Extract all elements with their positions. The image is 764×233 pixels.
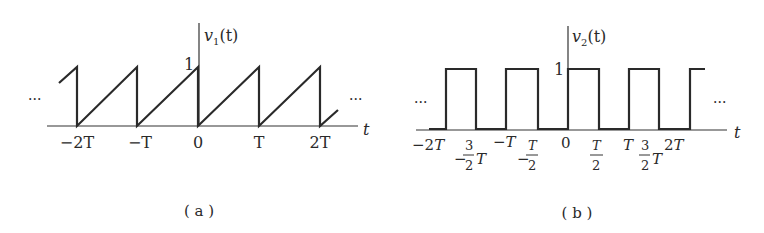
caption-b: ( b ) (562, 204, 593, 222)
y-label-a: v1(t) (204, 26, 238, 47)
square-wave (429, 69, 705, 129)
y-tick-1-a: 1 (184, 55, 194, 74)
svg-text:2: 2 (641, 158, 649, 173)
svg-text:T: T (652, 150, 663, 168)
x-tick-a: 2T (310, 133, 331, 152)
sawtooth-wave (59, 67, 338, 126)
chart-a: v1(t) 1 t ··· ··· −2T −T 0 T 2T ( a ) (28, 23, 370, 220)
x-label-a: t (363, 120, 370, 139)
y-label-b: v2(t) (572, 27, 606, 48)
x-tick-a: T (254, 133, 265, 152)
svg-text:−2T: −2T (412, 136, 445, 154)
svg-text:2T: 2T (664, 136, 685, 154)
svg-text:−T: −T (493, 133, 517, 151)
caption-a: ( a ) (184, 202, 214, 220)
svg-text:T: T (592, 138, 602, 153)
x-tick-a: −2T (60, 133, 95, 152)
dots-right-a: ··· (349, 91, 362, 107)
dots-left-b: ··· (414, 94, 427, 110)
x-label-b: t (734, 123, 741, 142)
dots-left-a: ··· (28, 91, 41, 107)
svg-text:3: 3 (465, 138, 473, 153)
svg-text:T: T (528, 138, 538, 153)
figure: v1(t) 1 t ··· ··· −2T −T 0 T 2T ( a ) v2… (0, 0, 764, 233)
x-tick-a: 0 (193, 133, 203, 152)
x-ticks-b: −2T − 3 2 T −T − T 2 0 T 2 T 3 2 T 2T (412, 133, 685, 173)
x-tick-a: −T (128, 133, 152, 152)
svg-text:0: 0 (561, 134, 571, 152)
svg-text:T: T (476, 150, 487, 168)
y-tick-1-b: 1 (554, 60, 564, 79)
svg-text:2: 2 (465, 158, 473, 173)
dots-right-b: ··· (713, 94, 726, 110)
svg-text:3: 3 (641, 138, 649, 153)
svg-text:2: 2 (592, 158, 600, 173)
svg-text:2: 2 (528, 158, 536, 173)
chart-b: v2(t) 1 t ··· ··· −2T − 3 2 T −T − T 2 0… (412, 26, 741, 222)
svg-text:T: T (623, 136, 634, 154)
